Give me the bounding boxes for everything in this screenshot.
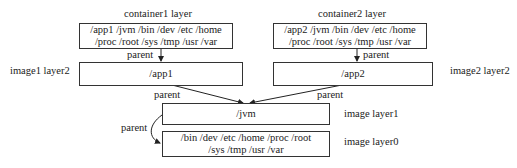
container1-line1: /app1 /jvm /bin /dev /etc /home: [90, 24, 222, 36]
image2-layer2-box: /app2: [273, 62, 433, 86]
l1-parent-label: parent: [121, 122, 147, 133]
container1-title: container1 layer: [124, 8, 192, 19]
image-layer1-label: image layer1: [344, 108, 399, 119]
image-layer0-line2: /sys /tmp /usr /var: [208, 144, 284, 156]
image-layer1-content: /jvm: [236, 108, 255, 120]
container1-line2: /proc /root /sys /tmp /usr /var: [95, 36, 217, 48]
image-layer0-line1: /bin /dev /etc /home /proc /root: [181, 132, 311, 144]
image1-layer2-label: image1 layer2: [10, 65, 70, 76]
i1-parent-label: parent: [154, 89, 180, 100]
image-layer0-box: /bin /dev /etc /home /proc /root /sys /t…: [162, 131, 330, 157]
c2-parent-label: parent: [363, 49, 389, 60]
i2-parent-label: parent: [317, 89, 343, 100]
c1-parent-label: parent: [127, 49, 153, 60]
image1-layer2-box: /app1: [79, 62, 243, 86]
container2-layer-box: /app2 /jvm /bin /dev /etc /home /proc /r…: [273, 23, 427, 49]
container2-line1: /app2 /jvm /bin /dev /etc /home: [284, 24, 416, 36]
image-layer1-box: /jvm: [162, 103, 330, 125]
container2-title: container2 layer: [318, 8, 386, 19]
container2-line2: /proc /root /sys /tmp /usr /var: [289, 36, 411, 48]
container1-layer-box: /app1 /jvm /bin /dev /etc /home /proc /r…: [79, 23, 233, 49]
image2-layer2-label: image2 layer2: [450, 65, 510, 76]
image1-layer2-content: /app1: [149, 68, 172, 80]
image-layer0-label: image layer0: [344, 136, 399, 147]
image2-layer2-content: /app2: [341, 68, 364, 80]
